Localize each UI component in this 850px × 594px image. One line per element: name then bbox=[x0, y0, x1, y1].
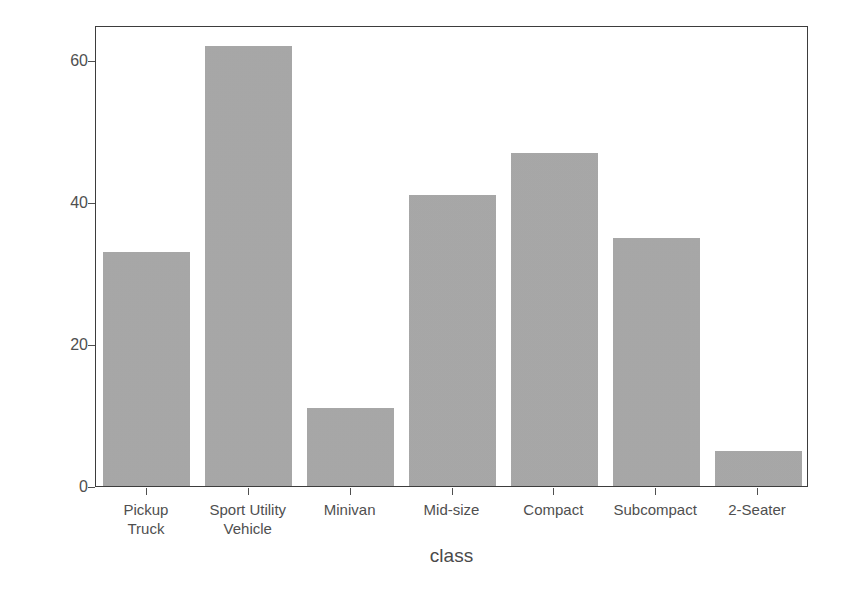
x-axis-tick-label: 2-Seater bbox=[692, 500, 822, 519]
x-axis-tick-labels: Pickup TruckSport Utility VehicleMinivan… bbox=[0, 0, 850, 594]
x-axis-title: class bbox=[95, 545, 808, 567]
bar-chart: count 0204060 Pickup TruckSport Utility … bbox=[0, 0, 850, 594]
